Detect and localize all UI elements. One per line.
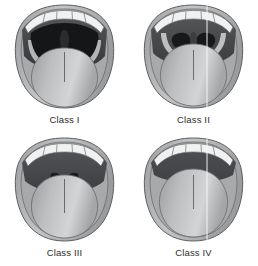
class-label-3: Class III xyxy=(0,247,129,258)
panel-class-4: Class IV xyxy=(129,133,258,266)
mouth-diagram-class-4 xyxy=(129,133,258,246)
panel-class-2: Class II xyxy=(129,0,258,133)
class-label-2: Class II xyxy=(129,114,258,125)
mouth-diagram-class-3 xyxy=(0,133,129,246)
panel-class-3: Class III xyxy=(0,133,129,266)
mouth-diagram-class-1 xyxy=(0,0,129,113)
panel-class-1: Class I xyxy=(0,0,129,133)
class-label-1: Class I xyxy=(0,114,129,125)
mouth-diagram-class-2 xyxy=(129,0,258,113)
uvula-class-1 xyxy=(60,30,69,50)
mallampati-figure-grid: Class I xyxy=(0,0,258,266)
class-label-4: Class IV xyxy=(129,247,258,258)
